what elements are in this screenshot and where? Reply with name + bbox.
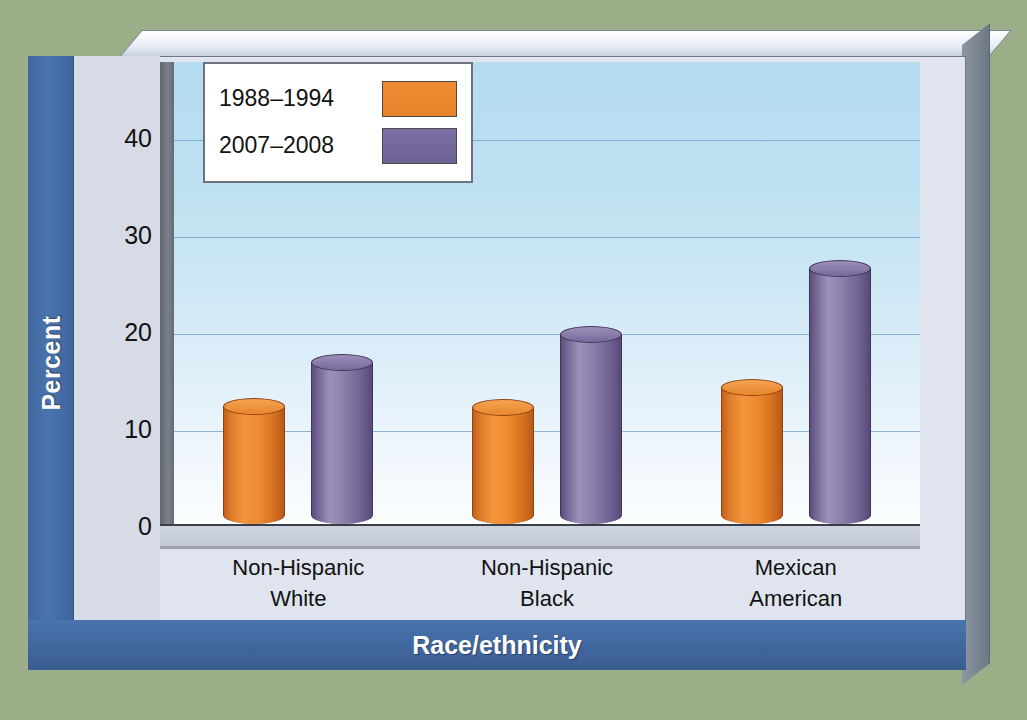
- legend: 1988–1994 2007–2008: [203, 62, 473, 183]
- x-category-label-1: Non-Hispanic Black: [423, 552, 672, 618]
- x-category-labels: Non-Hispanic White Non-Hispanic Black Me…: [174, 552, 920, 618]
- bar-2-0: [721, 387, 783, 524]
- legend-swatch-purple: [382, 128, 457, 164]
- y-axis-band: Percent: [28, 56, 74, 670]
- x-category-label-1-line1: Non-Hispanic: [423, 552, 672, 583]
- bar-cap: [311, 354, 373, 371]
- bar-0-1: [311, 362, 373, 524]
- y-tick-label-0: 0: [138, 512, 152, 541]
- bar-1-1: [560, 334, 622, 524]
- legend-item-1: 2007–2008: [219, 122, 457, 169]
- y-tick-label-10: 10: [124, 415, 152, 444]
- y-tick-label-40: 40: [124, 124, 152, 153]
- legend-swatch-orange: [382, 81, 457, 117]
- bar-cap: [223, 398, 285, 415]
- y-tick-label-30: 30: [124, 221, 152, 250]
- bar-0-0: [223, 406, 285, 524]
- legend-label-1: 2007–2008: [219, 132, 382, 159]
- bar-cap: [809, 260, 871, 277]
- legend-label-0: 1988–1994: [219, 85, 382, 112]
- x-category-label-0-line1: Non-Hispanic: [174, 552, 423, 583]
- x-category-label-2: Mexican American: [671, 552, 920, 618]
- plot-floor: [160, 524, 920, 548]
- x-category-label-2-line2: American: [671, 583, 920, 614]
- gridline-30: [174, 237, 920, 238]
- x-category-label-0: Non-Hispanic White: [174, 552, 423, 618]
- x-axis-band: Race/ethnicity: [28, 620, 966, 670]
- bar-2-1: [809, 268, 871, 524]
- frame-right-bevel: [962, 23, 990, 685]
- bar-cap: [560, 326, 622, 343]
- plot-floor-edge: [160, 546, 920, 549]
- frame-top-bevel: [120, 30, 1012, 56]
- plot-left-wall: [160, 62, 174, 530]
- x-category-label-1-line2: Black: [423, 583, 672, 614]
- chart-figure: Percent 40 30 20 10 0 Non-Hispanic White…: [0, 0, 1027, 720]
- bar-body: [560, 334, 622, 524]
- legend-item-0: 1988–1994: [219, 75, 457, 122]
- bar-body: [721, 387, 783, 524]
- bar-1-0: [472, 407, 534, 524]
- y-tick-label-20: 20: [124, 318, 152, 347]
- x-category-label-0-line2: White: [174, 583, 423, 614]
- bar-body: [809, 268, 871, 524]
- x-axis-title: Race/ethnicity: [412, 631, 582, 660]
- bar-cap: [472, 399, 534, 416]
- bar-body: [311, 362, 373, 524]
- y-axis-title: Percent: [36, 315, 65, 410]
- bar-body: [472, 407, 534, 524]
- y-tick-gutter: 40 30 20 10 0: [74, 56, 160, 620]
- x-category-label-2-line1: Mexican: [671, 552, 920, 583]
- bar-body: [223, 406, 285, 524]
